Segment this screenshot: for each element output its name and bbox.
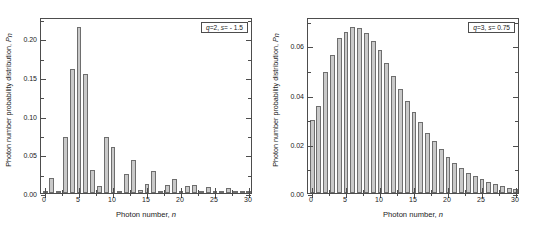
bar [330, 55, 335, 193]
x-axis-title-right: Photon number, n [307, 210, 519, 219]
y-tick-labels-right: 0.000.020.040.06 [281, 0, 307, 200]
x-axis-symbol-right: n [439, 210, 443, 219]
photon-distribution-figure: Photon number probability distribution, … [0, 0, 535, 239]
y-tick-mark-right [248, 176, 251, 177]
y-tick-mark [41, 98, 44, 99]
bar [486, 182, 491, 193]
x-tick-label: 0 [309, 196, 313, 203]
y-tick-mark-right [513, 47, 518, 48]
y-tick-mark-right [515, 72, 518, 73]
x-tick-labels-left: 051015202530 [40, 196, 252, 208]
y-tick-mark-right [515, 170, 518, 171]
y-tick-mark-right [513, 146, 518, 147]
y-tick-mark [308, 47, 313, 48]
y-tick-mark [41, 118, 46, 119]
legend-text2-left: = - 1.5 [224, 24, 243, 31]
y-tick-label: 0.02 [290, 141, 304, 148]
x-tick-label: 10 [375, 196, 383, 203]
y-tick-mark-right [248, 21, 251, 22]
y-axis-symbol-left: P [4, 37, 13, 42]
bar [131, 160, 136, 193]
y-axis-subscript-left: n [5, 33, 14, 37]
bar [412, 112, 417, 193]
y-axis-title-text-right: Photon number probability distribution, [271, 42, 280, 167]
plot-area-right: q=3, s= 0.75 [307, 18, 519, 194]
y-tick-label: 0.04 [290, 92, 304, 99]
legend-text2-right: = 0.75 [491, 24, 510, 31]
x-axis-title-left: Photon number, n [40, 210, 252, 219]
legend-text-right: =3, [477, 24, 488, 31]
bar [138, 190, 143, 193]
bar [63, 137, 68, 193]
bar [425, 133, 430, 193]
chart-panel-left: Photon number probability distribution, … [0, 0, 267, 239]
y-axis-subscript-right: n [272, 33, 281, 37]
bar [83, 74, 88, 193]
bar [432, 141, 437, 193]
bar-series-left [41, 19, 251, 193]
y-tick-label: 0.06 [290, 43, 304, 50]
bar [350, 27, 355, 193]
bar [192, 185, 197, 193]
bar [49, 178, 54, 193]
bar [104, 137, 109, 193]
x-tick-label: 15 [142, 196, 150, 203]
bar [226, 188, 231, 193]
bar [323, 72, 328, 193]
bar [206, 187, 211, 193]
y-tick-mark-right [515, 23, 518, 24]
bar [398, 89, 403, 193]
y-tick-mark [41, 60, 44, 61]
bar [378, 50, 383, 193]
y-tick-label: 0.00 [23, 191, 37, 198]
bar [70, 69, 75, 193]
legend-text-left: =2, [210, 24, 221, 31]
legend-box-left: q=2, s= - 1.5 [201, 22, 248, 33]
x-axis-symbol-left: n [172, 210, 176, 219]
bar [371, 41, 376, 193]
bar [172, 179, 177, 193]
bar [452, 163, 457, 193]
y-tick-mark [308, 146, 313, 147]
x-axis-title-text-left: Photon number, [116, 210, 172, 219]
bar [90, 170, 95, 193]
bar [233, 191, 238, 193]
bar [459, 168, 464, 193]
y-axis-title-text-left: Photon number probability distribution, [4, 42, 13, 167]
y-tick-mark [308, 121, 311, 122]
bar [405, 101, 410, 193]
bar [56, 191, 61, 193]
y-tick-label: 0.05 [23, 152, 37, 159]
y-tick-mark-right [246, 40, 251, 41]
y-tick-mark [308, 170, 311, 171]
bar [418, 122, 423, 193]
y-tick-mark-right [515, 121, 518, 122]
bar [111, 147, 116, 193]
bar [466, 173, 471, 193]
plot-area-left: q=2, s= - 1.5 [40, 18, 252, 194]
bar [97, 186, 102, 193]
bar [391, 76, 396, 193]
bar [199, 191, 204, 193]
x-tick-label: 20 [176, 196, 184, 203]
legend-box-right: q=3, s= 0.75 [468, 22, 515, 33]
bar [158, 191, 163, 193]
y-tick-mark [41, 156, 46, 157]
x-tick-label: 5 [76, 196, 80, 203]
y-tick-label: 0.20 [23, 36, 37, 43]
y-tick-mark-right [248, 60, 251, 61]
x-tick-label: 25 [477, 196, 485, 203]
x-tick-label: 10 [108, 196, 116, 203]
y-tick-mark-right [246, 79, 251, 80]
bar [344, 32, 349, 193]
chart-panel-right: Photon number probability distribution, … [267, 0, 535, 239]
y-tick-label: 0.00 [290, 191, 304, 198]
y-tick-mark [41, 176, 44, 177]
x-tick-label: 30 [511, 196, 519, 203]
y-tick-mark [308, 23, 311, 24]
x-tick-labels-right: 051015202530 [307, 196, 519, 208]
bar [117, 191, 122, 193]
bar [439, 149, 444, 193]
bar [357, 28, 362, 193]
bar [493, 184, 498, 193]
